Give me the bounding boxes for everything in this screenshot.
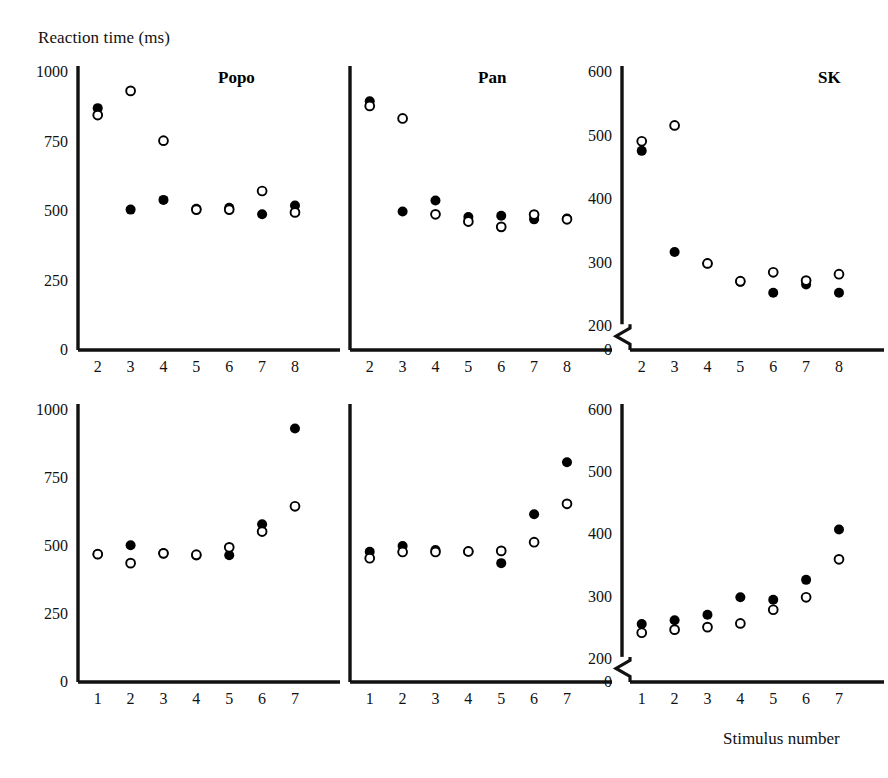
x-tick-label: 6 — [769, 358, 777, 376]
x-tick-label: 3 — [399, 358, 407, 376]
data-point-open — [365, 102, 374, 111]
x-tick-label: 7 — [563, 690, 571, 708]
x-tick-label: 4 — [192, 690, 200, 708]
data-point-filled — [126, 205, 136, 215]
x-tick-label: 6 — [530, 690, 538, 708]
x-tick-label: 3 — [671, 358, 679, 376]
data-point-open — [497, 546, 506, 555]
data-point-filled — [126, 540, 136, 550]
y-tick-label: 0 — [0, 341, 68, 359]
data-point-open — [398, 548, 407, 557]
data-point-open — [126, 559, 135, 568]
plot-area-sk-top — [622, 72, 888, 364]
panel-title-pan-top: Pan — [478, 68, 506, 88]
y-tick-label: 500 — [542, 463, 612, 481]
x-tick-label: 4 — [159, 358, 167, 376]
x-tick-label: 4 — [431, 358, 439, 376]
data-point-open — [530, 210, 539, 219]
y-tick-label: 500 — [0, 537, 68, 555]
data-point-open — [365, 554, 374, 563]
plot-area-sk-bottom — [622, 410, 888, 696]
data-point-filled — [529, 509, 539, 519]
y-tick-label: 200 — [542, 317, 612, 335]
data-point-open — [291, 208, 300, 217]
data-point-open — [192, 205, 201, 214]
y-tick-label: 250 — [0, 272, 68, 290]
data-point-open — [835, 555, 844, 564]
data-point-open — [670, 121, 679, 130]
x-tick-label: 2 — [671, 690, 679, 708]
data-point-open — [93, 111, 102, 120]
y-tick-label: 1000 — [0, 401, 68, 419]
data-point-open — [802, 276, 811, 285]
x-tick-label: 4 — [703, 358, 711, 376]
x-tick-label: 7 — [291, 690, 299, 708]
data-point-open — [563, 215, 572, 224]
data-point-filled — [801, 575, 811, 585]
x-tick-label: 5 — [736, 358, 744, 376]
data-point-open — [703, 623, 712, 632]
data-point-open — [497, 222, 506, 231]
x-tick-label: 1 — [366, 690, 374, 708]
data-point-open — [291, 502, 300, 511]
x-tick-label: 5 — [769, 690, 777, 708]
x-tick-label: 2 — [638, 358, 646, 376]
x-tick-label: 1 — [94, 690, 102, 708]
data-point-open — [563, 499, 572, 508]
data-point-filled — [637, 146, 647, 156]
data-point-open — [398, 114, 407, 123]
chart-panel-sk-bottom: 02003004005006001234567 — [622, 410, 862, 682]
data-point-open — [736, 619, 745, 628]
x-tick-label: 1 — [638, 690, 646, 708]
y-tick-label: 250 — [0, 605, 68, 623]
data-point-open — [703, 259, 712, 268]
y-tick-label: 0 — [542, 341, 612, 359]
x-tick-label: 6 — [258, 690, 266, 708]
data-point-open — [637, 137, 646, 146]
y-tick-label: 300 — [542, 254, 612, 272]
y-tick-label: 600 — [542, 63, 612, 81]
data-point-open — [670, 625, 679, 634]
x-tick-label: 5 — [192, 358, 200, 376]
data-point-open — [769, 605, 778, 614]
data-point-open — [464, 547, 473, 556]
data-point-filled — [768, 595, 778, 605]
x-tick-label: 4 — [464, 690, 472, 708]
x-tick-label: 3 — [703, 690, 711, 708]
data-point-filled — [496, 558, 506, 568]
x-tick-label: 5 — [225, 690, 233, 708]
panel-title-sk-top: SK — [818, 68, 841, 88]
data-point-open — [637, 628, 646, 637]
y-tick-label: 1000 — [0, 63, 68, 81]
figure-y-axis-label: Reaction time (ms) — [38, 28, 170, 48]
x-tick-label: 5 — [497, 690, 505, 708]
data-point-open — [126, 87, 135, 96]
y-tick-label: 750 — [0, 469, 68, 487]
data-point-filled — [768, 288, 778, 298]
x-tick-label: 7 — [802, 358, 810, 376]
y-tick-label: 600 — [542, 401, 612, 419]
chart-panel-sk-top: 02003004005006002345678 — [622, 72, 862, 350]
data-point-filled — [290, 423, 300, 433]
x-tick-label: 6 — [497, 358, 505, 376]
data-point-open — [258, 527, 267, 536]
y-tick-label: 0 — [542, 673, 612, 691]
data-point-open — [159, 549, 168, 558]
x-tick-label: 6 — [802, 690, 810, 708]
panel-title-popo-top: Popo — [218, 68, 255, 88]
chart-panel-popo-bottom: 025050075010001234567 — [78, 410, 318, 682]
plot-area-popo-bottom — [78, 410, 352, 696]
x-tick-label: 3 — [159, 690, 167, 708]
x-tick-label: 2 — [94, 358, 102, 376]
data-point-open — [835, 270, 844, 279]
data-point-open — [736, 277, 745, 286]
x-tick-label: 6 — [225, 358, 233, 376]
data-point-filled — [834, 524, 844, 534]
plot-area-popo-top — [78, 72, 352, 364]
data-point-open — [225, 205, 234, 214]
x-tick-label: 2 — [127, 690, 135, 708]
y-tick-label: 500 — [542, 127, 612, 145]
chart-panel-pan-top: 2345678 — [350, 72, 590, 350]
x-tick-label: 8 — [291, 358, 299, 376]
